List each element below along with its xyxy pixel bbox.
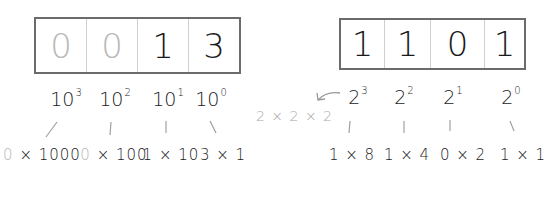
power-exponent: 2 (407, 85, 413, 96)
decimal-product-tens: 1 × 10 (143, 146, 200, 164)
binary-product-eights: 1 × 8 (329, 146, 375, 164)
product-multiplier: × 1 (516, 146, 546, 164)
binary-power-1: 21 (443, 86, 462, 108)
power-base: 2 (394, 86, 406, 108)
decimal-product-hundreds: 0 × 100 (80, 146, 147, 164)
decimal-product-ones: 3 × 1 (200, 146, 246, 164)
binary-digit-eights: 1 (341, 20, 385, 68)
power-exponent: 1 (456, 85, 462, 96)
product-digit: 0 (80, 146, 91, 164)
product-multiplier: × 100 (97, 146, 148, 164)
product-multiplier: × 1 (216, 146, 246, 164)
product-multiplier: × 10 (159, 146, 199, 164)
binary-power-3: 23 (348, 86, 367, 108)
product-digit: 1 (384, 146, 395, 164)
product-digit: 1 (500, 146, 511, 164)
binary-product-fours: 1 × 4 (384, 146, 430, 164)
power-exponent: 3 (361, 85, 367, 96)
power-exponent: 0 (514, 85, 520, 96)
decimal-product-thousands: 0 × 1000 (3, 146, 81, 164)
power-base: 2 (501, 86, 513, 108)
binary-digit-fours: 1 (385, 20, 431, 68)
product-multiplier: × 1000 (19, 146, 81, 164)
binary-power-2: 22 (394, 86, 413, 108)
binary-product-ones: 1 × 1 (500, 146, 546, 164)
power-base: 2 (348, 86, 360, 108)
power-expansion-annotation: 2 × 2 × 2 (256, 108, 333, 124)
product-digit: 3 (200, 146, 211, 164)
product-multiplier: × 2 (456, 146, 486, 164)
product-digit: 0 (3, 146, 14, 164)
product-multiplier: × 4 (400, 146, 430, 164)
product-digit: 1 (329, 146, 340, 164)
product-digit: 1 (143, 146, 154, 164)
binary-digit-twos: 0 (431, 20, 485, 68)
binary-product-twos: 0 × 2 (440, 146, 486, 164)
binary-power-0: 20 (501, 86, 520, 108)
product-multiplier: × 8 (345, 146, 375, 164)
binary-digit-ones: 1 (485, 20, 524, 68)
power-base: 2 (443, 86, 455, 108)
product-digit: 0 (440, 146, 451, 164)
binary-digit-box: 1 1 0 1 (339, 18, 526, 70)
